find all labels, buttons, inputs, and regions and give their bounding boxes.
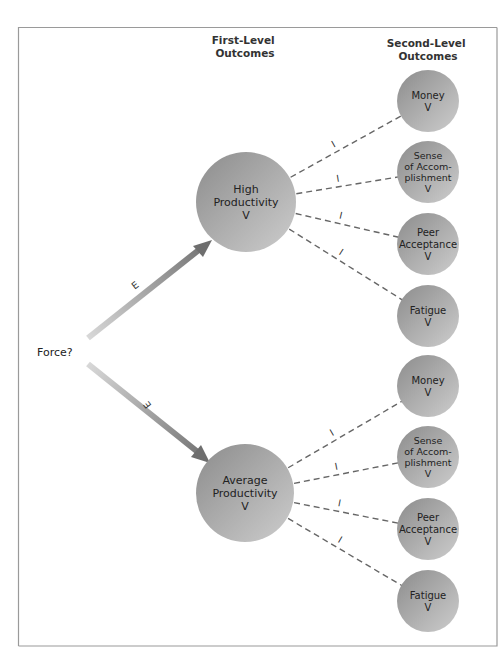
outcome-nodes: MoneyVSenseof Accom-plishmentVPeerAccept… xyxy=(196,70,459,632)
second-level-average-productivity-sense-of-accomplishment: Senseof Accom-plishmentV xyxy=(397,426,459,488)
instrumentality-label: I xyxy=(338,210,343,221)
first-level-high-productivity: HighProductivityV xyxy=(196,152,296,252)
instrumentality-link-high-productivity-fatigue xyxy=(289,229,402,300)
instrumentality-label: I xyxy=(329,138,337,149)
force-label: Force? xyxy=(37,346,73,359)
instrumentality-label: I xyxy=(328,427,336,438)
instrumentality-link-high-productivity-peer-acceptance xyxy=(296,213,399,237)
second-level-header: Second-Level Outcomes xyxy=(387,37,470,62)
instrumentality-link-high-productivity-sense-of-accomplishment xyxy=(296,177,398,194)
instrumentality-label: I xyxy=(337,497,342,508)
instrumentality-link-average-productivity-peer-acceptance xyxy=(294,503,399,524)
expectancy-theory-diagram: First-Level Outcomes Second-Level Outcom… xyxy=(0,0,501,663)
expectancy-arrow-average xyxy=(88,364,210,463)
first-level-average-productivity: AverageProductivityV xyxy=(196,444,294,542)
instrumentality-label: I xyxy=(336,173,341,184)
instrumentality-label: I xyxy=(336,534,344,545)
instrumentality-label: I xyxy=(334,461,339,472)
second-level-average-productivity-money: MoneyV xyxy=(397,355,459,417)
second-level-average-productivity-fatigue: FatigueV xyxy=(397,570,459,632)
second-level-average-productivity-peer-acceptance: PeerAcceptanceV xyxy=(397,498,459,560)
second-level-high-productivity-sense-of-accomplishment: Senseof Accom-plishmentV xyxy=(397,141,459,203)
instrumentality-link-average-productivity-fatigue xyxy=(288,518,402,585)
second-level-high-productivity-money: MoneyV xyxy=(397,70,459,132)
instrumentality-label: I xyxy=(337,246,345,257)
second-level-high-productivity-fatigue: FatigueV xyxy=(397,285,459,347)
expectancy-arrow-high xyxy=(88,240,212,338)
expectancy-label-high: E xyxy=(129,279,141,291)
expectancy-label-average: E xyxy=(141,399,153,411)
first-level-header: First-Level Outcomes xyxy=(212,34,279,59)
instrumentality-link-average-productivity-sense-of-accomplishment xyxy=(294,463,399,484)
instrumentality-links: IIIIIIII xyxy=(288,116,403,586)
second-level-high-productivity-peer-acceptance: PeerAcceptanceV xyxy=(397,213,459,275)
instrumentality-link-average-productivity-money xyxy=(288,401,402,468)
instrumentality-link-high-productivity-money xyxy=(291,116,402,178)
